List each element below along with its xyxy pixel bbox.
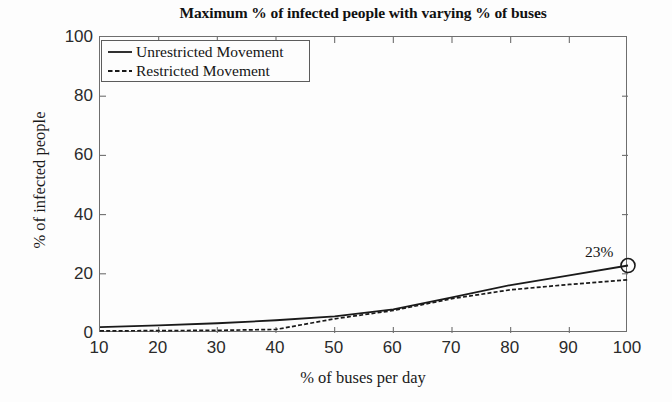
data-point-annotation: 23%	[585, 243, 613, 261]
x-tick-label: 30	[186, 339, 246, 356]
x-tick-label: 100	[597, 339, 657, 356]
chart-title: Maximum % of infected people with varyin…	[99, 4, 627, 22]
y-tick-label: 100	[47, 28, 93, 45]
solid-line-icon	[107, 47, 133, 57]
x-tick-label: 40	[245, 339, 305, 356]
x-tick-label: 90	[538, 339, 598, 356]
series-line-2	[100, 280, 628, 331]
legend-item-unrestricted: Unrestricted Movement	[102, 42, 309, 61]
x-tick-label: 10	[69, 339, 129, 356]
chart-figure: Maximum % of infected people with varyin…	[0, 0, 672, 402]
x-tick-label: 60	[362, 339, 422, 356]
x-axis-tick-labels: 102030405060708090100	[99, 339, 627, 363]
y-tick-label: 40	[47, 206, 93, 223]
x-tick-label: 50	[304, 339, 364, 356]
series-line-1	[100, 266, 628, 328]
x-tick-label: 20	[128, 339, 188, 356]
x-tick-label: 70	[421, 339, 481, 356]
x-tick-label: 80	[480, 339, 540, 356]
dashed-line-icon	[107, 66, 133, 76]
y-tick-label: 20	[47, 265, 93, 282]
x-axis-label: % of buses per day	[99, 368, 627, 388]
y-axis-tick-labels: 020406080100	[43, 36, 93, 332]
y-tick-label: 60	[47, 146, 93, 163]
y-tick-label: 80	[47, 87, 93, 104]
legend-item-restricted: Restricted Movement	[102, 61, 309, 80]
legend-label-unrestricted: Unrestricted Movement	[136, 44, 284, 60]
legend-label-restricted: Restricted Movement	[136, 63, 270, 79]
data-series-group	[100, 266, 628, 331]
chart-legend: Unrestricted Movement Restricted Movemen…	[101, 40, 310, 82]
